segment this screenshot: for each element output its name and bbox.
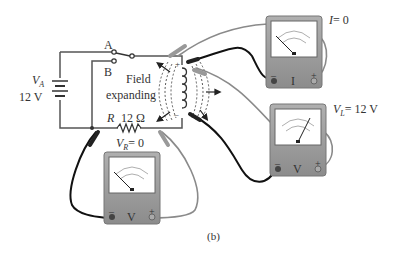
inductor-plus: + — [175, 60, 180, 69]
circuit-diagram — [0, 0, 397, 255]
resistor-value: 12 Ω — [121, 112, 145, 124]
inductor-voltmeter-face-label: V — [293, 162, 302, 177]
switch-label-a: A — [104, 39, 113, 51]
inductor-voltmeter-neg: – — [275, 158, 280, 169]
figure-caption: (b) — [207, 231, 220, 242]
ammeter-pos: + — [311, 70, 317, 81]
source-value: 12 V — [19, 91, 42, 103]
ammeter-reading: I= 0 — [329, 14, 349, 26]
inductor-voltage-reading: VL= 12 V — [333, 103, 378, 118]
field-label-line1: Field — [126, 73, 151, 85]
resistor-voltmeter-pos: + — [149, 206, 155, 217]
resistor-voltmeter-neg: – — [109, 206, 114, 217]
resistor-symbol: R — [107, 112, 114, 124]
ammeter-neg: – — [271, 70, 276, 81]
inductor-icon — [182, 68, 187, 108]
source-label: VA — [32, 74, 44, 89]
resistor-voltage: VR= 0 — [116, 137, 144, 152]
inductor-voltmeter-pos: + — [315, 158, 321, 169]
ammeter-face-label: I — [291, 74, 295, 89]
resistor-voltmeter-face-label: V — [127, 210, 136, 225]
battery-icon — [50, 78, 70, 100]
inductor-minus: – — [174, 110, 179, 119]
field-label-line2: expanding — [106, 89, 156, 101]
switch-label-b: B — [104, 66, 112, 78]
junction-dot — [90, 126, 94, 130]
switch-icon[interactable] — [112, 50, 134, 63]
